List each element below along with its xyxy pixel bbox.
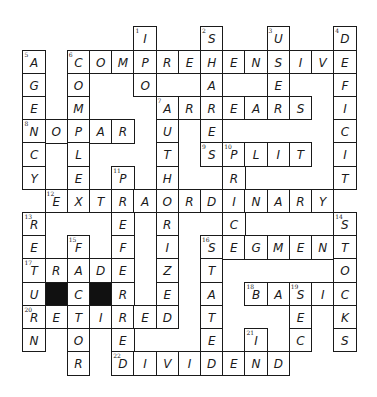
- grid-cell[interactable]: A: [200, 282, 223, 306]
- grid-cell[interactable]: R: [178, 189, 201, 213]
- grid-cell[interactable]: I: [222, 189, 245, 213]
- grid-cell[interactable]: U: [156, 119, 179, 143]
- grid-cell[interactable]: 20R: [22, 305, 45, 329]
- grid-cell[interactable]: O: [133, 73, 156, 97]
- grid-cell[interactable]: C: [222, 212, 245, 236]
- grid-cell[interactable]: 1I: [133, 26, 156, 50]
- grid-cell[interactable]: M: [267, 235, 290, 259]
- grid-cell[interactable]: E: [222, 235, 245, 259]
- grid-cell[interactable]: 17T: [22, 258, 45, 282]
- grid-cell[interactable]: I: [178, 351, 201, 375]
- grid-cell[interactable]: I: [156, 235, 179, 259]
- grid-cell[interactable]: O: [67, 73, 90, 97]
- grid-cell[interactable]: E: [111, 212, 134, 236]
- grid-cell[interactable]: I: [89, 305, 112, 329]
- grid-cell[interactable]: 4D: [333, 26, 356, 50]
- grid-cell[interactable]: N: [22, 328, 45, 352]
- grid-cell[interactable]: R: [111, 119, 134, 143]
- grid-cell[interactable]: R: [111, 189, 134, 213]
- grid-cell[interactable]: R: [222, 166, 245, 190]
- grid-cell[interactable]: S: [289, 96, 312, 120]
- grid-cell[interactable]: T: [156, 142, 179, 166]
- grid-cell[interactable]: D: [200, 351, 223, 375]
- grid-cell[interactable]: E: [222, 351, 245, 375]
- grid-cell[interactable]: M: [111, 50, 134, 74]
- grid-cell[interactable]: 10P: [222, 142, 245, 166]
- grid-cell[interactable]: 22D: [111, 351, 134, 375]
- grid-cell[interactable]: F: [111, 235, 134, 259]
- grid-cell[interactable]: R: [289, 189, 312, 213]
- grid-cell[interactable]: R: [156, 212, 179, 236]
- grid-cell[interactable]: E: [67, 166, 90, 190]
- grid-cell[interactable]: 3U: [267, 26, 290, 50]
- grid-cell[interactable]: S: [333, 328, 356, 352]
- grid-cell[interactable]: E: [111, 328, 134, 352]
- grid-cell[interactable]: C: [289, 328, 312, 352]
- grid-cell[interactable]: D: [267, 351, 290, 375]
- grid-cell[interactable]: E: [178, 50, 201, 74]
- grid-cell[interactable]: R: [111, 305, 134, 329]
- grid-cell[interactable]: E: [222, 96, 245, 120]
- grid-cell[interactable]: T: [333, 166, 356, 190]
- grid-cell[interactable]: A: [267, 282, 290, 306]
- grid-cell[interactable]: I: [311, 282, 334, 306]
- grid-cell[interactable]: E: [200, 328, 223, 352]
- grid-cell[interactable]: C: [22, 142, 45, 166]
- grid-cell[interactable]: E: [156, 282, 179, 306]
- grid-cell[interactable]: O: [89, 50, 112, 74]
- grid-cell[interactable]: H: [200, 50, 223, 74]
- grid-cell[interactable]: E: [222, 50, 245, 74]
- grid-cell[interactable]: V: [311, 50, 334, 74]
- grid-cell[interactable]: L: [67, 142, 90, 166]
- grid-cell[interactable]: A: [244, 96, 267, 120]
- grid-cell[interactable]: E: [133, 305, 156, 329]
- grid-cell[interactable]: P: [133, 50, 156, 74]
- grid-cell[interactable]: F: [333, 73, 356, 97]
- grid-cell[interactable]: G: [244, 235, 267, 259]
- grid-cell[interactable]: 5A: [22, 50, 45, 74]
- grid-cell[interactable]: V: [156, 351, 179, 375]
- grid-cell[interactable]: R: [200, 96, 223, 120]
- grid-cell[interactable]: D: [200, 189, 223, 213]
- grid-cell[interactable]: T: [333, 235, 356, 259]
- grid-cell[interactable]: A: [133, 189, 156, 213]
- grid-cell[interactable]: R: [111, 282, 134, 306]
- grid-cell[interactable]: 15F: [67, 235, 90, 259]
- grid-cell[interactable]: R: [267, 96, 290, 120]
- grid-cell[interactable]: 18B: [244, 282, 267, 306]
- grid-cell[interactable]: E: [22, 96, 45, 120]
- grid-cell[interactable]: N: [244, 189, 267, 213]
- grid-cell[interactable]: N: [244, 351, 267, 375]
- grid-cell[interactable]: Y: [22, 166, 45, 190]
- grid-cell[interactable]: E: [289, 235, 312, 259]
- grid-cell[interactable]: 12E: [45, 189, 68, 213]
- grid-cell[interactable]: C: [333, 119, 356, 143]
- grid-cell[interactable]: 21I: [244, 328, 267, 352]
- grid-cell[interactable]: P: [67, 119, 90, 143]
- grid-cell[interactable]: E: [333, 50, 356, 74]
- grid-cell[interactable]: E: [267, 73, 290, 97]
- grid-cell[interactable]: S: [267, 50, 290, 74]
- grid-cell[interactable]: I: [133, 351, 156, 375]
- grid-cell[interactable]: N: [244, 50, 267, 74]
- grid-cell[interactable]: T: [200, 258, 223, 282]
- grid-cell[interactable]: E: [22, 235, 45, 259]
- grid-cell[interactable]: L: [244, 142, 267, 166]
- grid-cell[interactable]: X: [67, 189, 90, 213]
- grid-cell[interactable]: T: [89, 189, 112, 213]
- grid-cell[interactable]: U: [22, 282, 45, 306]
- grid-cell[interactable]: R: [178, 96, 201, 120]
- grid-cell[interactable]: A: [200, 73, 223, 97]
- grid-cell[interactable]: I: [333, 142, 356, 166]
- grid-cell[interactable]: 8N: [22, 119, 45, 143]
- grid-cell[interactable]: A: [89, 119, 112, 143]
- grid-cell[interactable]: 9S: [200, 142, 223, 166]
- grid-cell[interactable]: T: [289, 142, 312, 166]
- grid-cell[interactable]: R: [156, 50, 179, 74]
- grid-cell[interactable]: 6C: [67, 50, 90, 74]
- grid-cell[interactable]: T: [67, 305, 90, 329]
- grid-cell[interactable]: H: [156, 166, 179, 190]
- grid-cell[interactable]: I: [333, 96, 356, 120]
- grid-cell[interactable]: 19S: [289, 282, 312, 306]
- grid-cell[interactable]: Z: [156, 258, 179, 282]
